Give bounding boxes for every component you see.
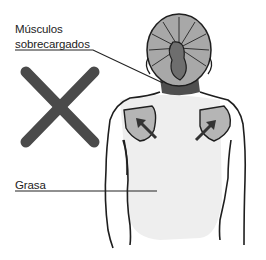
shoulder-patch-right (196, 106, 230, 141)
label-fat: Grasa (15, 178, 46, 193)
posture-illustration: Músculos sobrecargados Grasa (0, 0, 266, 260)
head (146, 14, 211, 86)
label-overloaded-muscles: Músculos sobrecargados (15, 22, 105, 52)
label-line-1: Músculos (15, 22, 105, 37)
x-mark-icon (26, 72, 94, 142)
label-line-2: sobrecargados (15, 37, 105, 52)
